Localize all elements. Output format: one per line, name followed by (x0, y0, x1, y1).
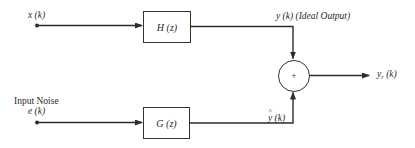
block-g-of-z: G (z) (143, 107, 190, 139)
block-diagram: x (k) Input Noise e (k) H (z) G (z) y (k… (0, 0, 415, 148)
input-noise-label: e (k) (28, 107, 45, 117)
connector-lines (0, 0, 415, 148)
input-x-label: x (k) (28, 11, 45, 21)
summing-junction: + (278, 60, 310, 92)
ideal-output-arrow (190, 27, 293, 59)
plus-icon: + (291, 71, 296, 81)
block-h-label: H (z) (157, 22, 177, 33)
ideal-output-label: y (k) (Ideal Output) (276, 12, 350, 22)
noise-output-label: y (k) (268, 114, 285, 124)
y-hat-symbol: y (268, 114, 272, 124)
block-g-label: G (z) (156, 118, 176, 129)
block-h-of-z: H (z) (143, 11, 191, 43)
real-output-label: yr (k) (377, 70, 397, 81)
